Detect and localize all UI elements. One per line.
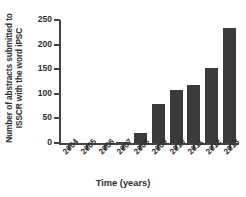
x-axis-label-2006: 2006 [97, 137, 116, 156]
x-axis-label-2005: 2005 [79, 137, 98, 156]
y-axis-tick-label: 250 [28, 14, 52, 24]
y-axis-title-line-1: Number of abstracts submitted to [4, 13, 14, 143]
x-axis-label-2004: 2004 [61, 137, 80, 156]
chart-figure: Number of abstracts submitted to ISSCR w… [0, 0, 246, 197]
bar-2010 [170, 90, 183, 143]
bar-2011 [187, 85, 200, 143]
y-axis-tick-label: 100 [28, 88, 52, 98]
y-axis-tick-label: 150 [28, 63, 52, 73]
y-axis-tick [54, 68, 60, 70]
y-axis-tick [54, 117, 60, 119]
y-axis-tick-label: 0 [28, 137, 52, 147]
x-axis-label-2007: 2007 [115, 137, 134, 156]
y-axis-tick [54, 19, 60, 21]
bar-2012 [205, 68, 218, 143]
bar-2013 [223, 28, 236, 143]
y-axis-tick-label: 50 [28, 112, 52, 122]
x-axis-title: Time (years) [0, 178, 246, 188]
y-axis-tick [54, 142, 60, 144]
y-axis-line [59, 20, 61, 144]
y-axis-tick [54, 44, 60, 46]
y-axis-tick-label: 200 [28, 39, 52, 49]
y-axis-tick [54, 93, 60, 95]
y-axis-title-line-2: ISSCR with the word iPSC [14, 27, 24, 127]
